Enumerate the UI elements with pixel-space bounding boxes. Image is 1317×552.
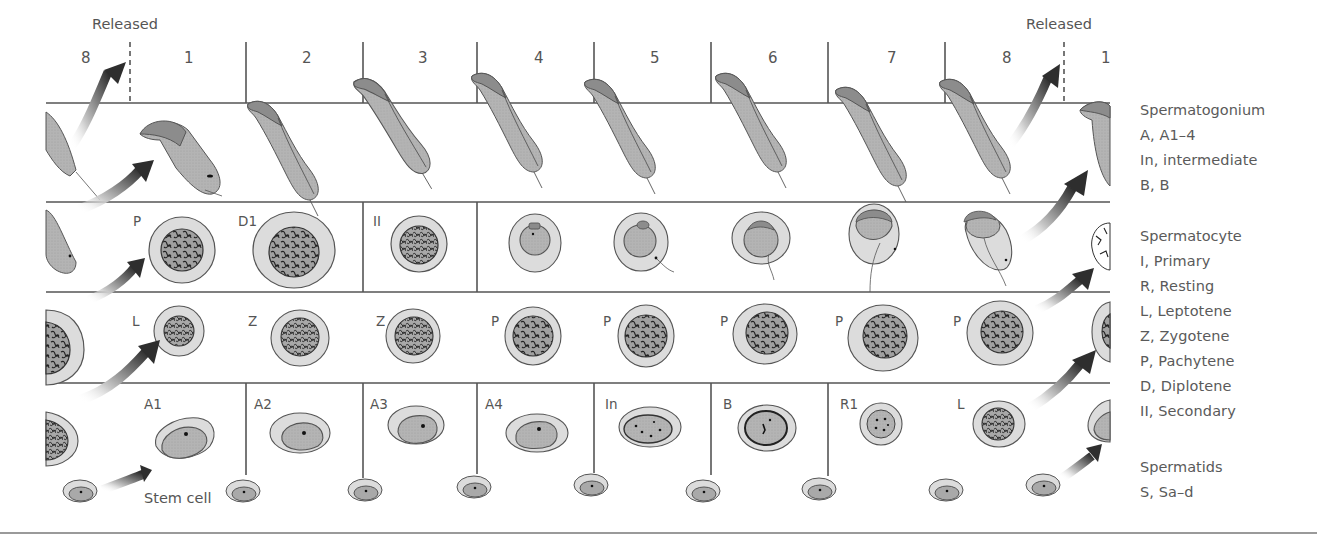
round-spermatid-1 — [509, 214, 561, 272]
secondary-spermatocyte — [391, 216, 447, 272]
pachytene-spermatocyte — [149, 217, 215, 283]
diagram-canvas: Released Released 8 1 2 3 4 5 6 7 8 1 — [0, 0, 1317, 552]
stage-label: P — [491, 313, 499, 329]
arrow-stemcell-to-A1 — [102, 465, 152, 490]
stage-number: 1 — [184, 49, 194, 67]
stem-cell-label: Stem cell — [144, 490, 212, 506]
legend-item: Z, Zygotene — [1140, 324, 1242, 349]
spermatid-stage5 — [585, 79, 656, 194]
arrow-row3-right — [1036, 268, 1094, 310]
legend-group-spermatids: Spermatids S, Sa–d — [1140, 455, 1223, 505]
bottom-rule — [0, 532, 1317, 534]
stage-label: Z — [376, 313, 385, 329]
stage-number: 8 — [1002, 49, 1012, 67]
stage-label: P — [603, 313, 611, 329]
spermatogenesis-diagram: Released Released 8 1 2 3 4 5 6 7 8 1 — [0, 0, 1317, 552]
released-label-right: Released — [1026, 16, 1092, 32]
spermatogonium-A3 — [388, 406, 444, 444]
arrow-released-right — [1010, 64, 1060, 145]
spermatocyte-edge-left — [46, 310, 84, 385]
stem-cell — [686, 480, 720, 502]
stage-number: 1 — [1101, 49, 1111, 67]
spermatid-stage3 — [353, 74, 431, 193]
spermatid-stage7 — [836, 87, 907, 202]
pachytene-spermatocyte-4 — [505, 307, 561, 365]
stage-number: 3 — [418, 49, 428, 67]
stage-label: P — [133, 213, 141, 229]
stem-cell — [457, 476, 491, 498]
legend-item: P, Pachytene — [1140, 349, 1242, 374]
stage-number: 4 — [534, 49, 544, 67]
legend-group-spermatocyte: Spermatocyte I, Primary R, Resting L, Le… — [1140, 224, 1242, 424]
stem-cell — [63, 480, 97, 502]
legend-item: S, Sa–d — [1140, 480, 1223, 505]
stage-label: P — [953, 313, 961, 329]
spermatogonium-edge-right — [1088, 400, 1110, 442]
arrow-row4-to-row3 — [80, 340, 160, 400]
released-label-left: Released — [92, 16, 158, 32]
arrow-row3-to-row2 — [88, 258, 145, 300]
legend-group-spermatogonium: Spermatogonium A, A1–4 In, intermediate … — [1140, 98, 1265, 198]
stage-label: A1 — [144, 396, 162, 412]
row-spermatogonia: A1 A2 A3 A4 In B R1 L — [46, 396, 1110, 506]
legend-item: A, A1–4 — [1140, 123, 1265, 148]
legend-item: II, Secondary — [1140, 399, 1242, 424]
legend-title: Spermatids — [1140, 455, 1223, 480]
stage-number: 5 — [650, 49, 660, 67]
stage-number: 7 — [887, 49, 897, 67]
elongating-spermatid-2 — [964, 211, 1012, 286]
round-spermatid-2 — [614, 213, 674, 272]
resting-spermatocyte-R1 — [860, 403, 902, 445]
spermatogonium-B — [738, 405, 796, 451]
arrow-released-left — [72, 62, 126, 146]
stage-label: A3 — [370, 396, 388, 412]
spermatid-stage6 — [716, 73, 787, 188]
stem-cell — [929, 479, 963, 501]
stem-cell — [802, 478, 836, 500]
pachytene-spermatocyte-5 — [618, 305, 674, 367]
stage-number: 6 — [768, 49, 778, 67]
spermatogonium-intermediate — [619, 407, 681, 447]
spermatid-stage1 — [140, 121, 222, 196]
legend-item: D, Diplotene — [1140, 374, 1242, 399]
spermatocyte-edge-left-row4 — [46, 412, 78, 466]
elongating-spermatid-1 — [849, 204, 899, 292]
round-spermatid-3 — [732, 212, 790, 280]
legend-title: Spermatogonium — [1140, 98, 1265, 123]
stage-label: R1 — [840, 396, 858, 412]
stage-dividers — [246, 42, 945, 478]
pachytene-spermatocyte-8 — [967, 301, 1033, 365]
spermatogonium-A1 — [156, 418, 214, 458]
spermatid-edge-left — [46, 112, 100, 200]
legend-item: B, B — [1140, 173, 1265, 198]
row-early-spermatids: P D1 II — [46, 204, 1110, 292]
progression-arrows — [72, 62, 1102, 490]
stem-cell — [1026, 474, 1060, 496]
stage-label: L — [957, 396, 965, 412]
stage-label: A2 — [254, 396, 272, 412]
stem-cell — [574, 474, 608, 496]
pachytene-spermatocyte-6 — [733, 304, 797, 364]
stage-label: P — [720, 313, 728, 329]
stage-label: L — [132, 313, 140, 329]
row-spermatocytes: L Z Z P P P P P — [46, 301, 1110, 385]
leptotene-spermatocyte-row4 — [973, 401, 1025, 447]
legend-item: L, Leptotene — [1140, 299, 1242, 324]
arrow-row2-right — [1022, 170, 1088, 240]
stage-label: P — [835, 313, 843, 329]
legend-item: In, intermediate — [1140, 148, 1265, 173]
arrow-stemcell-right — [1062, 444, 1102, 478]
legend-title: Spermatocyte — [1140, 224, 1242, 249]
stage-label: D1 — [238, 213, 257, 229]
spermatogonium-A2 — [270, 413, 330, 453]
row-late-spermatids — [46, 73, 1110, 216]
spermatogonium-A4 — [506, 414, 568, 452]
zygotene-spermatocyte-1 — [271, 310, 329, 366]
stage-label: Z — [248, 313, 257, 329]
stage-label: B — [723, 396, 732, 412]
stage-label: A4 — [485, 396, 503, 412]
spermatocyte-edge-right-row2 — [1092, 223, 1110, 270]
pachytene-spermatocyte-7 — [848, 305, 918, 371]
spermatid-stage8 — [940, 79, 1011, 194]
diplotene-spermatocyte — [253, 212, 335, 288]
